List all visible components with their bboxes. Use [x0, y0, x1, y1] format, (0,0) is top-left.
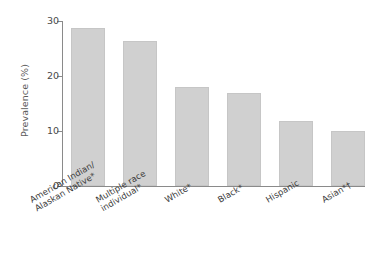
bar-chart: Prevalence (%) 0 10 20 30 American India… [0, 0, 379, 256]
x-tick-label: Black* [216, 182, 245, 204]
x-tick-label: White* [163, 181, 193, 204]
x-tick-label: Hispanic [264, 178, 301, 205]
x-tick-label: Asian*† [320, 180, 353, 205]
x-tick-label: Multiple race individual* [94, 168, 152, 213]
x-axis-category-labels: American Indian/ Alaskan Native* Multipl… [0, 0, 379, 256]
x-tick-label: American Indian/ Alaskan Native* [28, 159, 101, 213]
